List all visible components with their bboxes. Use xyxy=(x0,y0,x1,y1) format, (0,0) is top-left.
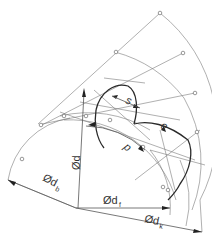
svg-text:Ød: Ød xyxy=(103,194,118,206)
tooth-profile xyxy=(95,85,191,200)
label-base-diameter: Ød b xyxy=(40,171,64,193)
dimension-lines xyxy=(8,88,202,233)
label-e: e xyxy=(159,119,170,132)
gear-involute-diagram: s e p Ød Ød b Ød f Ød k xyxy=(0,0,212,248)
svg-text:Ød: Ød xyxy=(144,212,161,227)
label-p: p xyxy=(121,140,134,154)
label-tip-diameter: Ød k xyxy=(143,212,165,230)
label-root-diameter: Ød f xyxy=(103,194,121,208)
label-pitch-diameter: Ød xyxy=(70,155,82,170)
svg-text:f: f xyxy=(119,201,121,208)
svg-text:k: k xyxy=(159,222,164,230)
